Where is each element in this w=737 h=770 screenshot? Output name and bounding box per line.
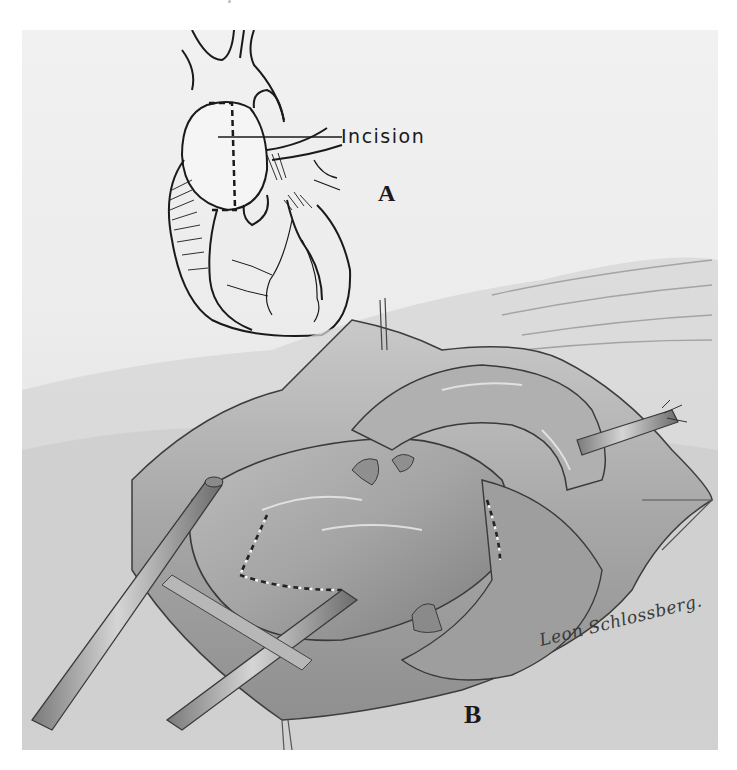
panel-a-heart-drawing xyxy=(169,30,350,336)
illustration-plate: Incision A B Leon Schlossberg. xyxy=(22,30,718,750)
panel-a-label: A xyxy=(378,180,395,207)
panel-b-surgical-field xyxy=(22,258,718,751)
panel-b-label: B xyxy=(464,700,481,730)
stray-mark xyxy=(228,0,231,3)
incision-callout-label: Incision xyxy=(341,125,425,147)
